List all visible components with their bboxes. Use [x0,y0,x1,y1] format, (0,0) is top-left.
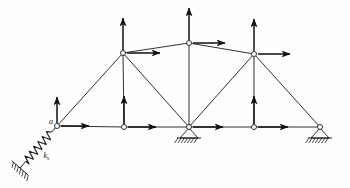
end-post-a-f [57,53,123,126]
supports [12,126,332,181]
pinned-support-right [306,128,332,143]
node-top-left-node [121,51,126,56]
node-right-end-node [318,125,323,130]
truss-diagram: aks [0,0,350,188]
top-chord-g-h [189,43,254,54]
node-apex-node [187,41,192,46]
top-chord-f-g [123,43,189,53]
spring-support-left [12,126,57,181]
diagonal-f-c [123,53,189,127]
diagonal-h-c [189,54,254,127]
node-bottom-center-node [187,125,192,130]
node-bottom-left-node [122,125,127,130]
node-left-end-node [55,124,60,129]
spring-label: ks [44,151,50,161]
spring-label-subscript: s [47,155,49,161]
truss-members [57,43,320,127]
end-post-h-e [254,54,320,127]
node-bottom-right-node [252,125,257,130]
left-node-label: a [49,117,53,126]
node-top-right-node [252,52,257,57]
pinned-support-center [175,128,201,143]
